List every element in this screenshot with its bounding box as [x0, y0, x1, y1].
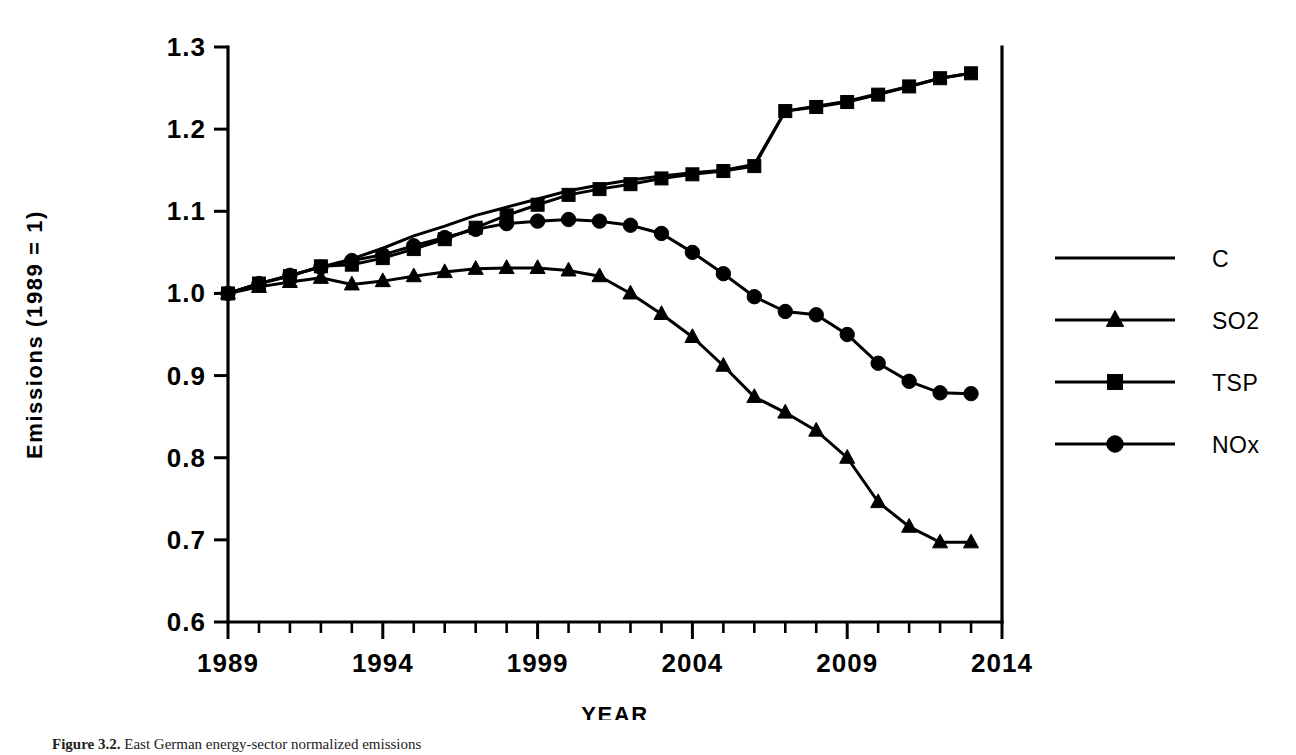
- chart-legend: CSO2TSPNOx: [1055, 246, 1260, 458]
- x-axis-tick-label: 1994: [352, 648, 414, 678]
- x-axis-tick-label: 2004: [661, 648, 723, 678]
- triangle-marker: [902, 519, 917, 533]
- square-marker: [562, 188, 575, 201]
- circle-marker: [685, 245, 699, 259]
- figure-caption-text: East German energy-sector normalized emi…: [124, 736, 421, 752]
- square-marker: [903, 80, 916, 93]
- square-marker: [872, 88, 885, 101]
- legend-item-nox[interactable]: NOx: [1055, 432, 1260, 458]
- circle-marker: [283, 268, 297, 282]
- y-axis-tick-label: 1.2: [167, 114, 206, 144]
- legend-label: NOx: [1212, 432, 1260, 458]
- circle-marker: [221, 286, 235, 300]
- triangle-marker: [654, 306, 669, 320]
- figure-caption: Figure 3.2. East German energy-sector no…: [52, 733, 752, 755]
- series-nox: [221, 212, 978, 401]
- circle-marker: [964, 386, 978, 400]
- circle-marker: [902, 374, 916, 388]
- circle-marker: [407, 239, 421, 253]
- square-marker: [1108, 375, 1123, 390]
- triangle-marker: [809, 422, 824, 436]
- chart-axes: [214, 47, 1002, 639]
- square-marker: [810, 100, 823, 113]
- square-marker: [841, 96, 854, 109]
- circle-marker: [345, 253, 359, 267]
- circle-marker: [499, 216, 513, 230]
- y-axis-tick-label: 1.1: [167, 196, 206, 226]
- circle-marker: [654, 226, 668, 240]
- legend-label: SO2: [1212, 308, 1260, 334]
- chart-axis-titles: YEAREmissions (1989 = 1): [22, 210, 649, 720]
- square-marker: [655, 172, 668, 185]
- circle-marker: [592, 214, 606, 228]
- x-axis-title: YEAR: [581, 702, 649, 720]
- y-axis-tick-label: 0.8: [167, 443, 206, 473]
- square-marker: [531, 198, 544, 211]
- square-marker: [717, 165, 730, 178]
- chart-tick-labels: 0.60.70.80.91.01.11.21.31989199419992004…: [167, 32, 1033, 678]
- y-axis-tick-label: 0.7: [167, 525, 206, 555]
- square-marker: [934, 72, 947, 85]
- y-axis-tick-label: 1.3: [167, 32, 206, 62]
- circle-marker: [809, 308, 823, 322]
- series-line-nox: [228, 220, 971, 394]
- triangle-marker: [685, 329, 700, 343]
- square-marker: [686, 168, 699, 181]
- legend-item-so2[interactable]: SO2: [1055, 308, 1260, 334]
- x-axis-tick-label: 1989: [197, 648, 259, 678]
- emissions-line-chart: 0.60.70.80.91.01.11.21.31989199419992004…: [0, 0, 1296, 720]
- square-marker: [965, 67, 978, 80]
- circle-marker: [376, 248, 390, 262]
- square-marker: [748, 160, 761, 173]
- x-axis-tick-label: 1999: [507, 648, 569, 678]
- circle-marker: [252, 276, 266, 290]
- circle-marker: [933, 386, 947, 400]
- square-marker: [624, 178, 637, 191]
- x-axis-tick-label: 2009: [816, 648, 878, 678]
- circle-marker: [530, 214, 544, 228]
- y-axis-tick-label: 1.0: [167, 278, 206, 308]
- series-so2: [221, 260, 979, 548]
- figure-caption-label: Figure 3.2.: [52, 736, 120, 752]
- chart-series: [221, 67, 979, 548]
- circle-marker: [561, 212, 575, 226]
- square-marker: [593, 183, 606, 196]
- circle-marker: [840, 327, 854, 341]
- legend-item-tsp[interactable]: TSP: [1055, 370, 1258, 396]
- y-axis-title: Emissions (1989 = 1): [22, 210, 47, 459]
- legend-label: C: [1212, 246, 1229, 272]
- circle-marker: [1107, 436, 1124, 453]
- x-axis-tick-label: 2014: [971, 648, 1033, 678]
- triangle-marker: [1106, 311, 1123, 327]
- circle-marker: [468, 222, 482, 236]
- figure-container: 0.60.70.80.91.01.11.21.31989199419992004…: [0, 0, 1296, 755]
- circle-marker: [623, 218, 637, 232]
- square-marker: [779, 105, 792, 118]
- circle-marker: [871, 356, 885, 370]
- circle-marker: [716, 267, 730, 281]
- circle-marker: [747, 290, 761, 304]
- legend-label: TSP: [1212, 370, 1258, 396]
- circle-marker: [438, 230, 452, 244]
- y-axis-tick-label: 0.6: [167, 607, 206, 637]
- series-line-so2: [228, 268, 971, 542]
- circle-marker: [314, 260, 328, 274]
- circle-marker: [778, 304, 792, 318]
- y-axis-tick-label: 0.9: [167, 361, 206, 391]
- legend-item-c[interactable]: C: [1055, 246, 1229, 272]
